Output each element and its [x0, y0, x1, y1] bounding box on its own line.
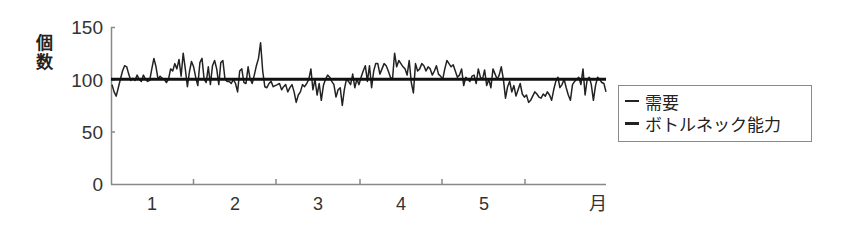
legend-label-bottleneck: ボトルネック能力	[645, 111, 781, 136]
y-tick-150: 150	[71, 17, 103, 38]
chart-legend: 需要 ボトルネック能力	[618, 85, 812, 142]
legend-item-bottleneck: ボトルネック能力	[619, 112, 811, 134]
axes	[111, 27, 606, 185]
legend-item-demand: 需要	[619, 90, 811, 112]
y-tick-0: 0	[92, 174, 103, 195]
x-tick-4: 4	[396, 194, 406, 214]
x-tick-5: 5	[479, 194, 489, 214]
thin-line-swatch-icon	[625, 100, 639, 102]
y-axis-label-char-2: 数	[36, 52, 54, 72]
y-axis-label-char-1: 個	[35, 33, 53, 53]
thick-line-swatch-icon	[625, 122, 639, 125]
x-tick-3: 3	[313, 194, 323, 214]
x-axis-unit-label: 月	[589, 194, 607, 214]
x-tick-1: 1	[147, 194, 157, 214]
y-tick-50: 50	[82, 122, 103, 143]
x-tick-2: 2	[230, 194, 240, 214]
demand-series-line	[112, 43, 606, 106]
y-tick-100: 100	[71, 70, 103, 91]
